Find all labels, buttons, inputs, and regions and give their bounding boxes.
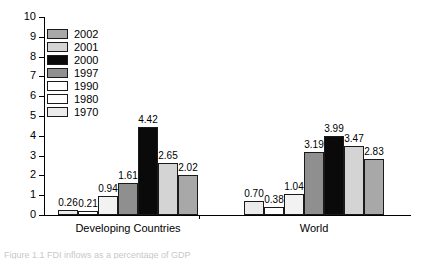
legend-swatch (47, 29, 68, 39)
legend-item: 1980 (47, 93, 98, 105)
legend-swatch (47, 42, 68, 52)
legend-item: 2000 (47, 54, 98, 66)
y-axis-tick-label: 3 (12, 150, 36, 161)
bar (78, 211, 98, 215)
bar-value-label: 2.02 (172, 163, 204, 173)
bar-value-label: 2.83 (358, 147, 390, 157)
bar (264, 207, 284, 215)
bar-value-label: 2.65 (152, 151, 184, 161)
y-axis-tick (39, 215, 44, 216)
legend-swatch (47, 107, 68, 117)
bar (98, 196, 118, 215)
y-axis-tick-label: 1 (12, 189, 36, 200)
legend-swatch (47, 94, 68, 104)
bar-chart: 012345678910 0.260.210.941.614.422.652.0… (0, 0, 422, 259)
y-axis-tick-label: 0 (12, 209, 36, 220)
bar (364, 159, 384, 215)
y-axis-tick-label: 4 (12, 130, 36, 141)
legend-swatch (47, 55, 68, 65)
x-axis-category-label: World (234, 222, 394, 234)
bar-group: 0.700.381.043.193.993.472.83 (244, 17, 384, 215)
legend-label: 1980 (74, 94, 98, 105)
legend-item: 1997 (47, 67, 98, 79)
legend-item: 2002 (47, 28, 98, 40)
bar (58, 210, 78, 215)
bar (138, 127, 158, 215)
legend-label: 2001 (74, 42, 98, 53)
legend-swatch (47, 68, 68, 78)
legend-swatch (47, 81, 68, 91)
legend-item: 1990 (47, 80, 98, 92)
x-axis-category-label: Developing Countries (48, 222, 208, 234)
bar (304, 152, 324, 215)
y-axis-labels: 012345678910 (8, 0, 36, 259)
bar-value-label: 3.47 (338, 134, 370, 144)
bar-value-label: 4.42 (132, 115, 164, 125)
legend-item: 2001 (47, 41, 98, 53)
legend-label: 2000 (74, 55, 98, 66)
bar (118, 183, 138, 215)
y-axis-tick-label: 2 (12, 169, 36, 180)
y-axis-tick-label: 10 (12, 11, 36, 22)
x-axis-line (44, 215, 411, 216)
legend-label: 2002 (74, 29, 98, 40)
chart-legend: 2002200120001997199019801970 (47, 28, 98, 119)
y-axis-tick-label: 9 (12, 31, 36, 42)
y-axis-tick-label: 7 (12, 70, 36, 81)
legend-label: 1990 (74, 81, 98, 92)
legend-item: 1970 (47, 106, 98, 118)
legend-label: 1970 (74, 107, 98, 118)
plot-area: 0.260.210.941.614.422.652.020.700.381.04… (44, 17, 410, 215)
bar (324, 136, 344, 215)
x-axis-group-separator-tick (199, 215, 200, 219)
bar (178, 175, 198, 215)
y-axis-tick-label: 5 (12, 110, 36, 121)
bar (284, 194, 304, 215)
figure-caption: Figure 1.1 FDI inflows as a percentage o… (4, 250, 191, 259)
y-axis-tick-label: 8 (12, 51, 36, 62)
y-axis-tick-label: 6 (12, 90, 36, 101)
legend-label: 1997 (74, 68, 98, 79)
